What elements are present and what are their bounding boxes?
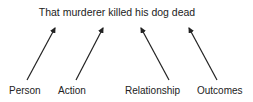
- label-outcomes: Outcomes: [197, 85, 243, 96]
- arrow-relationship: [141, 28, 169, 80]
- label-relationship: Relationship: [125, 85, 180, 96]
- label-action: Action: [58, 85, 86, 96]
- arrow-action: [76, 28, 103, 80]
- arrow-outcomes: [189, 28, 217, 80]
- arrow-person: [27, 28, 55, 80]
- label-person: Person: [9, 85, 41, 96]
